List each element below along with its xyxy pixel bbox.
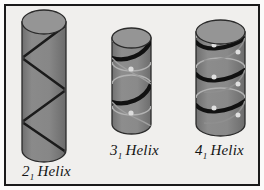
cylinder-helix-3-1 [112, 28, 151, 134]
helix-node [212, 106, 217, 111]
helix-label-3-1: 31Helix [110, 142, 159, 161]
helix-label-number: 3 [110, 142, 118, 158]
cylinder-body [112, 38, 151, 134]
vertex-node [20, 56, 25, 61]
helix-label-word: Helix [208, 142, 243, 158]
vertex-node [20, 120, 25, 125]
helix-label-number: 4 [195, 142, 203, 158]
cylinder-helix-2-1 [20, 10, 69, 162]
helix-node [212, 75, 217, 80]
helix-node [128, 110, 133, 115]
helix-illustration-canvas [0, 0, 264, 190]
helix-label-4-1: 41Helix [195, 142, 244, 161]
helix-label-number: 2 [22, 163, 30, 179]
cylinder-top-ellipse [22, 10, 66, 34]
cylinder-top-ellipse [196, 20, 245, 44]
helix-label-2-1: 21Helix [22, 163, 71, 182]
helix-label-word: Helix [35, 163, 70, 179]
helix-node [236, 50, 241, 55]
helix-label-word: Helix [123, 142, 158, 158]
cylinder-top-ellipse [112, 28, 151, 48]
figure-root: 21Helix 31Helix 41Helix [0, 0, 264, 190]
helix-node [236, 82, 241, 87]
cylinder-helix-4-1 [196, 20, 245, 136]
helix-node [128, 66, 133, 71]
vertex-node [64, 88, 69, 93]
helix-node [236, 113, 241, 118]
